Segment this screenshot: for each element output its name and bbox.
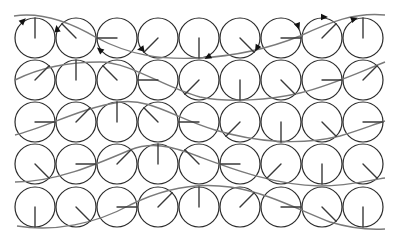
phase-hand <box>103 66 117 80</box>
phase-hand <box>281 80 295 94</box>
phase-hand <box>158 193 172 207</box>
phase-hand <box>35 66 49 80</box>
phase-hand <box>267 164 281 178</box>
phase-hand <box>240 38 254 52</box>
phase-circle-diagram <box>0 0 397 242</box>
phase-hand <box>240 193 254 207</box>
wave-curve <box>17 186 385 230</box>
phase-hand <box>185 150 199 164</box>
phase-hand <box>35 164 49 178</box>
phase-hand <box>76 207 90 221</box>
phase-hand <box>185 80 199 94</box>
diagram-canvas <box>0 0 397 242</box>
phase-hand <box>322 122 336 136</box>
wave-curve <box>15 62 385 100</box>
phase-hand <box>76 108 90 122</box>
phase-hand <box>144 38 158 52</box>
wave-curve <box>15 101 385 141</box>
hands-layer <box>35 18 383 227</box>
wave-curve <box>15 146 385 186</box>
phase-hand <box>363 164 377 178</box>
phase-hand <box>226 122 240 136</box>
phase-hand <box>144 108 158 122</box>
